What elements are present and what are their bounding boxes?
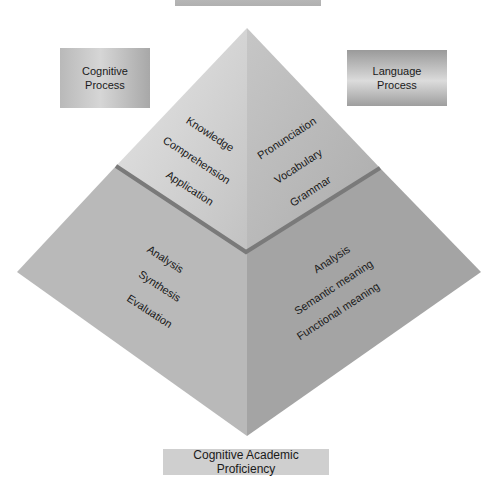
cognitive-process-line1: Cognitive bbox=[82, 64, 128, 78]
pyramid-diagram: Cognitive Process Language Process Knowl… bbox=[0, 0, 488, 488]
cognitive-process-box: Cognitive Process bbox=[60, 48, 150, 108]
cognitive-academic-proficiency-box: Cognitive Academic Proficiency bbox=[163, 449, 329, 475]
language-process-line2: Process bbox=[373, 78, 422, 92]
language-process-box: Language Process bbox=[347, 50, 447, 106]
language-process-line1: Language bbox=[373, 64, 422, 78]
top-box bbox=[175, 0, 321, 6]
cognitive-process-line2: Process bbox=[82, 78, 128, 92]
